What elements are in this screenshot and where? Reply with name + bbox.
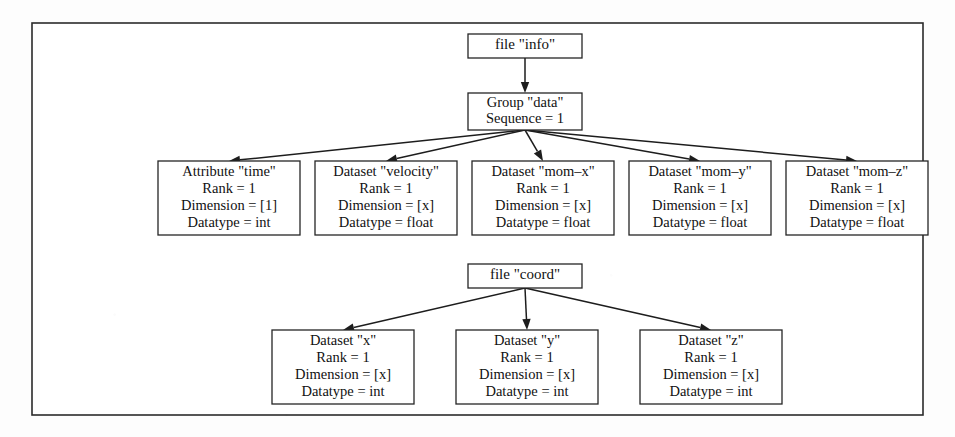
node-dataset-z-line-1: Rank = 1 <box>684 349 737 365</box>
node-dataset-velocity: Dataset "velocity"Rank = 1Dimension = [x… <box>315 161 457 235</box>
node-file-coord-line-0: file "coord" <box>490 266 560 282</box>
node-dataset-mom-y-line-0: Dataset "mom–y" <box>648 163 751 179</box>
node-file-info: file "info" <box>468 34 582 58</box>
node-dataset-mom-y-line-2: Dimension = [x] <box>652 197 748 213</box>
node-attr-time-line-0: Attribute "time" <box>182 163 276 179</box>
node-dataset-mom-z-line-1: Rank = 1 <box>830 180 883 196</box>
node-dataset-velocity-line-1: Rank = 1 <box>359 180 412 196</box>
node-dataset-mom-x: Dataset "mom–x"Rank = 1Dimension = [x]Da… <box>472 161 614 235</box>
node-group-data: Group "data"Sequence = 1 <box>468 93 582 130</box>
node-file-info-line-0: file "info" <box>495 36 555 52</box>
node-file-coord: file "coord" <box>468 264 582 288</box>
node-dataset-velocity-line-2: Dimension = [x] <box>338 197 434 213</box>
node-dataset-z-line-3: Datatype = int <box>669 383 752 399</box>
node-dataset-mom-x-line-2: Dimension = [x] <box>495 197 591 213</box>
node-dataset-x-line-3: Datatype = int <box>301 383 384 399</box>
node-dataset-y: Dataset "y"Rank = 1Dimension = [x]Dataty… <box>456 330 598 404</box>
node-dataset-mom-z-line-3: Datatype = float <box>810 214 904 230</box>
node-dataset-y-line-1: Rank = 1 <box>500 349 553 365</box>
node-dataset-mom-x-line-3: Datatype = float <box>496 214 590 230</box>
node-dataset-velocity-line-0: Dataset "velocity" <box>333 163 439 179</box>
node-dataset-z-line-0: Dataset "z" <box>678 332 743 348</box>
node-group-data-line-1: Sequence = 1 <box>486 110 564 126</box>
node-dataset-mom-z-line-0: Dataset "mom–z" <box>806 163 909 179</box>
node-dataset-y-line-2: Dimension = [x] <box>479 366 575 382</box>
node-dataset-y-line-0: Dataset "y" <box>494 332 560 348</box>
node-dataset-x-line-2: Dimension = [x] <box>295 366 391 382</box>
node-dataset-mom-x-line-1: Rank = 1 <box>516 180 569 196</box>
node-dataset-mom-x-line-0: Dataset "mom–x" <box>491 163 594 179</box>
hdf-structure-figure: file "info"Group "data"Sequence = 1Attri… <box>0 0 955 437</box>
node-dataset-mom-y-line-3: Datatype = float <box>653 214 747 230</box>
node-dataset-x: Dataset "x"Rank = 1Dimension = [x]Dataty… <box>272 330 414 404</box>
node-dataset-mom-z: Dataset "mom–z"Rank = 1Dimension = [x]Da… <box>786 161 928 235</box>
node-dataset-x-line-1: Rank = 1 <box>316 349 369 365</box>
node-group-data-line-0: Group "data" <box>487 94 564 110</box>
node-dataset-mom-z-line-2: Dimension = [x] <box>809 197 905 213</box>
node-dataset-x-line-0: Dataset "x" <box>310 332 376 348</box>
node-dataset-z-line-2: Dimension = [x] <box>663 366 759 382</box>
node-dataset-velocity-line-3: Datatype = float <box>339 214 433 230</box>
node-attr-time-line-3: Datatype = int <box>187 214 270 230</box>
node-dataset-mom-y-line-1: Rank = 1 <box>673 180 726 196</box>
node-dataset-mom-y: Dataset "mom–y"Rank = 1Dimension = [x]Da… <box>629 161 771 235</box>
node-dataset-y-line-3: Datatype = int <box>485 383 568 399</box>
node-dataset-z: Dataset "z"Rank = 1Dimension = [x]Dataty… <box>640 330 782 404</box>
node-attr-time: Attribute "time"Rank = 1Dimension = [1]D… <box>158 161 300 235</box>
node-attr-time-line-1: Rank = 1 <box>202 180 255 196</box>
node-attr-time-line-2: Dimension = [1] <box>181 197 277 213</box>
